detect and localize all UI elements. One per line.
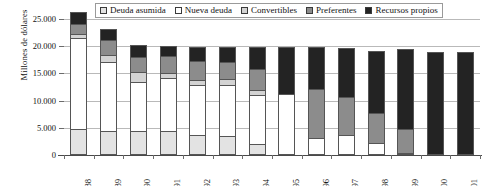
bar-segment-recursos-propios	[338, 48, 355, 97]
x-tick-label-1998: 1998	[380, 179, 390, 186]
bar-segment-nueva-deuda	[70, 38, 87, 130]
bar-segment-nueva-deuda	[130, 82, 147, 131]
bar-1995[interactable]	[278, 47, 295, 155]
bar-segment-preferentes	[70, 24, 87, 34]
bar-1993[interactable]	[219, 47, 236, 155]
x-tick-label-2001: 2001	[469, 179, 479, 186]
bar-segment-recursos-propios	[427, 52, 444, 155]
x-tick-mark	[123, 155, 124, 159]
legend-label: Nueva deuda	[185, 5, 232, 15]
legend-swatch-icon	[241, 7, 248, 14]
chart-legend: Deuda asumidaNueva deudaConvertiblesPref…	[95, 3, 443, 18]
bar-segment-nueva-deuda	[249, 95, 266, 143]
bar-segment-recursos-propios	[397, 49, 414, 129]
bar-1996[interactable]	[308, 47, 325, 155]
y-tick-label: 15.000	[33, 68, 56, 78]
bar-segment-recursos-propios	[189, 47, 206, 61]
x-tick-label-1988: 1988	[83, 179, 93, 186]
bar-segment-deuda-asumida	[130, 131, 147, 155]
legend-item-deuda-asumida[interactable]: Deuda asumida	[100, 5, 166, 15]
bar-segment-preferentes	[308, 89, 325, 139]
bar-segment-nueva-deuda	[160, 78, 177, 131]
x-tick-mark	[153, 155, 154, 159]
bar-1992[interactable]	[189, 47, 206, 155]
bar-segment-recursos-propios	[308, 47, 325, 89]
x-tick-mark	[480, 155, 481, 159]
bar-segment-deuda-asumida	[189, 135, 206, 155]
y-tick-label: 5.000	[37, 123, 56, 133]
bar-segment-recursos-propios	[219, 47, 236, 62]
x-axis-line	[58, 155, 482, 156]
legend-swatch-icon	[365, 7, 372, 14]
bar-segment-preferentes	[368, 113, 385, 142]
x-tick-mark	[391, 155, 392, 159]
bar-1989[interactable]	[100, 29, 117, 155]
legend-item-recursos-propios[interactable]: Recursos propios	[365, 5, 437, 15]
stacked-bar-chart: Millones de dólares 05.00010.00015.00020…	[0, 0, 492, 186]
legend-label: Preferentes	[316, 5, 356, 15]
bar-1988[interactable]	[70, 12, 87, 155]
legend-item-preferentes[interactable]: Preferentes	[306, 5, 356, 15]
x-tick-mark	[302, 155, 303, 159]
x-tick-mark	[213, 155, 214, 159]
bar-segment-deuda-asumida	[249, 144, 266, 155]
bar-segment-nueva-deuda	[308, 138, 325, 155]
legend-item-nueva-deuda[interactable]: Nueva deuda	[175, 5, 232, 15]
bar-2001[interactable]	[457, 52, 474, 155]
bar-segment-convertibles	[130, 72, 147, 81]
bar-1997[interactable]	[338, 48, 355, 155]
legend-item-convertibles[interactable]: Convertibles	[241, 5, 297, 15]
bar-segment-preferentes	[249, 69, 266, 91]
bar-segment-convertibles	[100, 55, 117, 62]
x-tick-label-1997: 1997	[350, 179, 360, 186]
x-tick-label-2000: 2000	[439, 179, 449, 186]
bar-segment-preferentes	[219, 62, 236, 79]
x-tick-label-1991: 1991	[172, 179, 182, 186]
bar-segment-nueva-deuda	[338, 135, 355, 155]
bar-segment-recursos-propios	[368, 51, 385, 113]
bar-segment-recursos-propios	[249, 47, 266, 68]
bar-segment-nueva-deuda	[100, 62, 117, 131]
bar-segment-deuda-asumida	[100, 131, 117, 155]
x-tick-mark	[183, 155, 184, 159]
x-tick-mark	[94, 155, 95, 159]
bar-segment-preferentes	[100, 40, 117, 55]
x-tick-mark	[64, 155, 65, 159]
legend-label: Deuda asumida	[110, 5, 166, 15]
bar-1990[interactable]	[130, 45, 147, 155]
bar-segment-nueva-deuda	[219, 85, 236, 136]
bar-segment-deuda-asumida	[219, 136, 236, 155]
bar-segment-recursos-propios	[160, 46, 177, 56]
bar-segment-preferentes	[189, 61, 206, 81]
x-tick-label-1992: 1992	[202, 179, 212, 186]
bar-segment-recursos-propios	[278, 47, 295, 94]
legend-label: Recursos propios	[375, 5, 437, 15]
bar-segment-nueva-deuda	[189, 85, 206, 135]
bar-segment-preferentes	[130, 57, 147, 72]
bar-segment-preferentes	[338, 97, 355, 135]
bar-1991[interactable]	[160, 46, 177, 155]
y-tick-label: 10.000	[33, 96, 56, 106]
y-tick-label: 25.000	[33, 14, 56, 24]
x-tick-label-1995: 1995	[291, 179, 301, 186]
x-tick-label-1999: 1999	[410, 179, 420, 186]
bar-segment-recursos-propios	[100, 29, 117, 40]
bar-segment-nueva-deuda	[278, 94, 295, 155]
bar-segment-preferentes	[160, 56, 177, 73]
x-tick-mark	[421, 155, 422, 159]
x-tick-label-1990: 1990	[142, 179, 152, 186]
legend-swatch-icon	[100, 7, 107, 14]
y-tick-label: 20.000	[33, 41, 56, 51]
bar-2000[interactable]	[427, 52, 444, 155]
bar-segment-recursos-propios	[70, 12, 87, 24]
bar-segment-preferentes	[397, 129, 414, 153]
x-tick-mark	[242, 155, 243, 159]
bar-1999[interactable]	[397, 49, 414, 155]
x-tick-mark	[450, 155, 451, 159]
bar-1998[interactable]	[368, 51, 385, 155]
bar-series-container	[64, 19, 480, 155]
x-tick-mark	[331, 155, 332, 159]
bar-segment-nueva-deuda	[368, 143, 385, 156]
x-tick-label-1996: 1996	[321, 179, 331, 186]
bar-1994[interactable]	[249, 47, 266, 155]
